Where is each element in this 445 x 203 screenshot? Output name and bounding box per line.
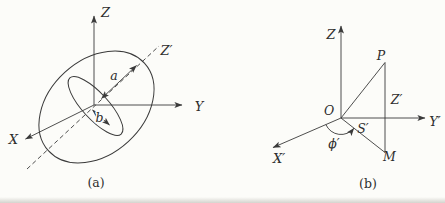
outer-ellipse [17,28,176,185]
panel-a [17,16,182,186]
op-line [341,63,385,119]
figure-canvas: Z Y X Z′ a b (a) Z Y′ X′ O P M Z′ S′ [0,0,445,203]
semi-major-label: a [110,68,117,83]
panel-b-z-label: Z [325,27,336,42]
panel-b-y-prime-label: Y′ [429,114,441,129]
x-axis [26,105,95,139]
panel-b [273,26,425,153]
semi-minor-label: b [95,110,103,125]
panel-b-x-prime-label: X′ [272,151,285,166]
segment-z-prime-label: Z′ [390,92,403,107]
origin-label: O [324,103,334,118]
semi-major-arrow [102,66,137,99]
panel-a-z-label: Z [100,5,111,20]
inner-ellipse [60,69,131,143]
phi-prime-angle-arc [326,125,354,135]
angle-phi-prime-label: ϕ′ [328,136,340,151]
z-prime-dashed-axis [27,46,159,169]
panel-a-x-label: X [8,132,19,147]
panel-a-z-prime-label: Z′ [160,43,173,58]
point-p-label: P [376,48,386,63]
panel-a-y-label: Y [195,99,205,114]
panel-a-caption: (a) [87,175,104,190]
panel-b-caption: (b) [359,176,377,191]
ellipsoid-coordinate-diagram: Z Y X Z′ a b (a) Z Y′ X′ O P M Z′ S′ [0,0,445,203]
segment-s-prime-label: S′ [357,121,369,136]
point-m-label: M [382,149,397,164]
